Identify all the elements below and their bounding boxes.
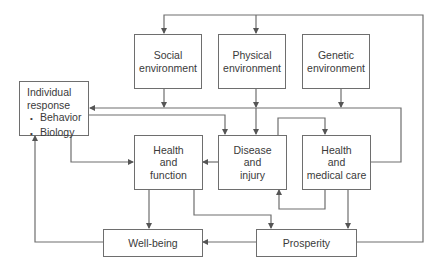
- node-health-and-medical-care: Health and medical care: [302, 135, 371, 190]
- node-label: Genetic environment: [307, 49, 365, 74]
- list-item-biology: Biology: [27, 126, 81, 141]
- list-item-behavior: Behavior: [27, 111, 81, 126]
- node-label: Disease and injury: [234, 144, 272, 182]
- node-label: Health and function: [150, 144, 187, 182]
- node-label: Social environment: [139, 49, 197, 74]
- node-label: Well-being: [128, 237, 177, 250]
- node-disease-and-injury: Disease and injury: [218, 135, 287, 190]
- node-genetic-environment: Genetic environment: [302, 34, 370, 89]
- node-label: Physical environment: [223, 49, 281, 74]
- node-social-environment: Social environment: [134, 34, 202, 89]
- node-health-and-function: Health and function: [134, 135, 203, 190]
- node-physical-environment: Physical environment: [218, 34, 286, 89]
- node-well-being: Well-being: [103, 229, 203, 257]
- node-title: Individual response: [27, 86, 81, 111]
- node-label: Prosperity: [283, 237, 330, 250]
- node-prosperity: Prosperity: [256, 229, 357, 257]
- node-label: Health and medical care: [307, 144, 367, 182]
- node-individual-response: Individual response Behavior Biology: [19, 81, 89, 136]
- node-item-list: Behavior Biology: [27, 111, 81, 140]
